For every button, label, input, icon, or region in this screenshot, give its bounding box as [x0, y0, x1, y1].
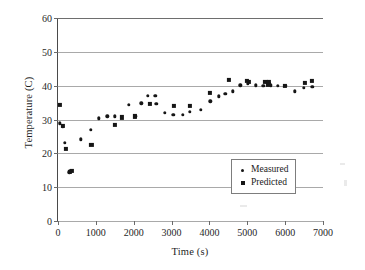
- data-point-measured: [79, 138, 82, 141]
- x-tick-mark: [134, 221, 135, 225]
- x-tick-label: 2000: [124, 227, 144, 238]
- y-tick-label: 60: [42, 13, 52, 24]
- data-point-measured: [106, 114, 109, 117]
- data-point-predicted: [227, 78, 231, 82]
- data-point-predicted: [283, 84, 287, 88]
- data-point-predicted: [208, 91, 212, 95]
- x-tick-mark: [323, 221, 324, 225]
- x-tick-label: 1000: [86, 227, 106, 238]
- y-tick-label: 0: [47, 216, 52, 227]
- data-point-measured: [231, 90, 234, 93]
- x-tick-mark: [96, 221, 97, 225]
- y-tick-label: 50: [42, 46, 52, 57]
- gridline-y-20: [58, 153, 323, 154]
- data-point-measured: [163, 111, 166, 114]
- x-tick-label: 7000: [313, 227, 333, 238]
- data-point-measured: [181, 113, 184, 116]
- page-artifact: [344, 180, 347, 186]
- gridline-y-30: [58, 120, 323, 121]
- x-tick-mark: [285, 221, 286, 225]
- legend-label-measured: Measured: [251, 163, 288, 176]
- data-point-measured: [302, 86, 305, 89]
- data-point-measured: [89, 128, 92, 131]
- y-tick-mark: [54, 52, 58, 53]
- legend-entry-measured: Measured: [238, 163, 288, 176]
- y-axis-title: Temperature (C): [23, 33, 34, 193]
- data-point-measured: [140, 102, 143, 105]
- data-point-measured: [146, 94, 149, 97]
- y-tick-mark: [54, 86, 58, 87]
- data-point-measured: [217, 95, 220, 98]
- x-tick-label: 6000: [275, 227, 295, 238]
- x-tick-mark: [172, 221, 173, 225]
- page-artifact: [240, 205, 247, 207]
- chart-figure: Temperature (C) 010203040506001000200030…: [0, 0, 365, 270]
- x-tick-label: 0: [56, 227, 61, 238]
- gridline-y-0: [58, 221, 323, 222]
- data-point-measured: [261, 84, 264, 87]
- data-point-predicted: [303, 81, 307, 85]
- chart-legend: Measured Predicted: [231, 159, 296, 194]
- data-point-predicted: [70, 169, 74, 173]
- data-point-predicted: [133, 114, 137, 118]
- x-axis-title: Time (s): [57, 246, 323, 257]
- y-tick-mark: [54, 120, 58, 121]
- data-point-predicted: [310, 79, 314, 83]
- data-point-measured: [224, 92, 227, 95]
- data-point-predicted: [188, 104, 192, 108]
- y-tick-mark: [54, 187, 58, 188]
- data-point-predicted: [120, 115, 124, 119]
- data-point-measured: [188, 110, 191, 113]
- x-tick-mark: [209, 221, 210, 225]
- data-point-predicted: [89, 143, 93, 147]
- y-tick-label: 10: [42, 182, 52, 193]
- data-point-measured: [199, 108, 202, 111]
- y-tick-label: 40: [42, 80, 52, 91]
- y-tick-mark: [54, 153, 58, 154]
- data-point-predicted: [64, 147, 68, 151]
- legend-marker-square-icon: [238, 176, 247, 189]
- data-point-predicted: [172, 104, 176, 108]
- data-point-predicted: [61, 124, 65, 128]
- data-point-predicted: [148, 102, 152, 106]
- legend-label-predicted: Predicted: [251, 176, 287, 189]
- data-point-measured: [311, 85, 314, 88]
- y-tick-label: 30: [42, 114, 52, 125]
- x-tick-mark: [247, 221, 248, 225]
- legend-marker-circle-icon: [238, 163, 247, 176]
- data-point-predicted: [247, 80, 251, 84]
- page-artifact: [340, 163, 345, 165]
- data-point-measured: [113, 114, 116, 117]
- data-point-measured: [63, 141, 66, 144]
- data-point-measured: [276, 84, 279, 87]
- data-point-measured: [155, 102, 158, 105]
- data-point-measured: [172, 113, 175, 116]
- x-tick-label: 4000: [199, 227, 219, 238]
- data-point-measured: [154, 94, 157, 97]
- gridline-y-50: [58, 52, 323, 53]
- data-point-predicted: [267, 80, 271, 84]
- legend-entry-predicted: Predicted: [238, 176, 288, 189]
- data-point-measured: [208, 100, 211, 103]
- y-tick-label: 20: [42, 148, 52, 159]
- gridline-y-60: [58, 18, 323, 19]
- y-tick-mark: [54, 18, 58, 19]
- x-tick-label: 3000: [162, 227, 182, 238]
- data-point-predicted: [113, 123, 117, 127]
- data-point-measured: [293, 90, 296, 93]
- x-tick-label: 5000: [237, 227, 257, 238]
- data-point-predicted: [58, 103, 62, 107]
- data-point-measured: [127, 103, 130, 106]
- x-tick-mark: [58, 221, 59, 225]
